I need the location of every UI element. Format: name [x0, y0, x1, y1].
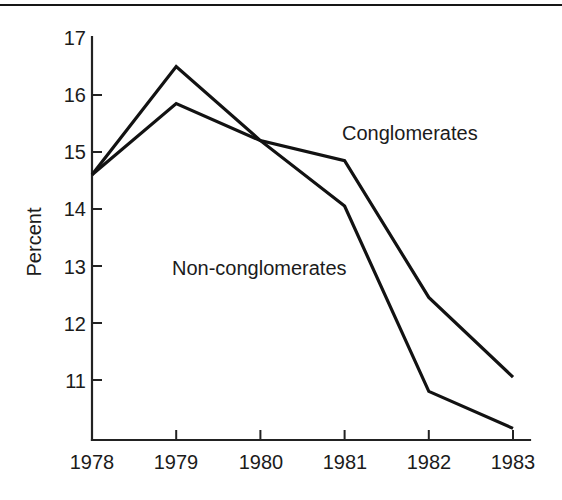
axis-group	[92, 37, 530, 440]
x-tick-mark-group	[92, 430, 513, 440]
y-tick-mark-group	[92, 95, 102, 380]
series-line-conglomerates	[92, 67, 513, 378]
series-group	[92, 67, 513, 429]
chart-plot-area	[0, 0, 562, 500]
series-line-non-conglomerates	[92, 104, 513, 429]
chart-figure: Percent 17 16 15 14 13 12 11 1978 1979 1…	[0, 0, 562, 500]
